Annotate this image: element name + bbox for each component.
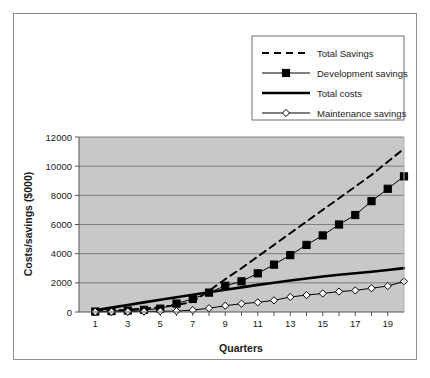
x-axis-title: Quarters [219,342,263,354]
y-axis-tick-label: 10000 [46,161,72,172]
x-axis-tick-label: 13 [285,318,296,329]
x-axis-tick-label: 11 [253,318,263,329]
data-point-marker-square [384,185,391,192]
legend: Total SavingsDevelopment savingsTotal co… [252,36,408,120]
x-axis-tick-label: 17 [350,318,361,329]
legend-item-label: Total costs [317,88,362,99]
chart-canvas: 020004000600080001000012000 135791113151… [14,14,416,359]
legend-item[interactable]: Development savings [262,68,408,79]
data-point-marker-square [238,278,245,285]
y-axis-ticks-group: 020004000600080001000012000 [46,132,79,318]
legend-item-label: Maintenance savings [317,108,406,119]
legend-item-label: Total Savings [317,48,374,59]
data-point-marker-square [368,198,375,205]
y-axis-tick-label: 4000 [51,248,72,259]
data-point-marker-square [352,211,359,218]
x-axis-tick-label: 3 [125,318,130,329]
data-point-marker-square [270,261,277,268]
x-axis-tick-label: 1 [93,318,98,329]
y-axis-tick-label: 0 [67,307,72,318]
x-axis-tick-label: 9 [223,318,228,329]
x-axis-ticks-group: 135791113151719 [93,312,393,329]
x-axis-tick-label: 5 [158,318,163,329]
data-point-marker-square [335,221,342,228]
y-axis-tick-label: 2000 [51,277,72,288]
data-point-marker-square [319,232,326,239]
data-point-marker-square [282,69,289,76]
y-axis-tick-label: 8000 [51,190,72,201]
data-point-marker-square [303,241,310,248]
legend-item-label: Development savings [317,68,408,79]
y-axis-title: Costs/savings ($000) [22,172,34,276]
x-axis-tick-label: 7 [190,318,195,329]
x-axis-tick-label: 15 [317,318,328,329]
figure-frame: 020004000600080001000012000 135791113151… [13,13,417,360]
x-axis-tick-label: 19 [382,318,393,329]
y-axis-tick-label: 12000 [46,132,72,143]
data-point-marker-square [254,270,261,277]
data-point-marker-square [173,300,180,307]
data-point-marker-square [287,252,294,259]
y-axis-tick-label: 6000 [51,219,72,230]
